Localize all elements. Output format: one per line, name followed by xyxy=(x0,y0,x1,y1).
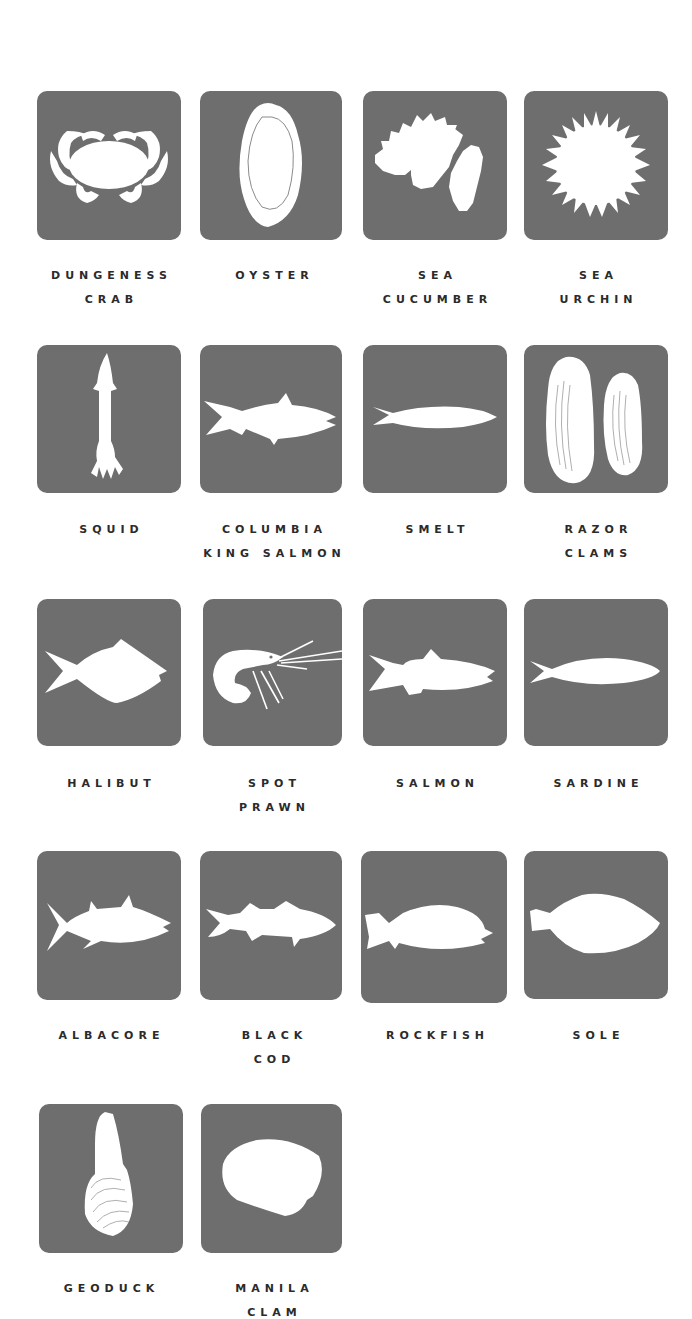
species-label: SMELT xyxy=(345,518,525,542)
albacore-icon xyxy=(37,851,181,1000)
seafood-species-grid: DUNGENESS CRAB OYSTER SEA CUCUMBER xyxy=(0,0,692,1319)
species-label: OYSTER xyxy=(182,264,362,288)
crab-icon xyxy=(37,91,181,240)
species-label: BLACK COD xyxy=(182,1024,362,1072)
sardine-icon xyxy=(524,599,668,746)
species-label: SEA URCHIN xyxy=(506,264,686,312)
species-card-spot-prawn: SPOT PRAWN xyxy=(203,599,373,839)
species-card-columbia-king-salmon: COLUMBIA KING SALMON xyxy=(200,345,370,585)
species-label: SALMON xyxy=(345,772,525,796)
sole-icon xyxy=(524,851,668,999)
razor-clams-icon xyxy=(524,345,668,493)
species-card-manila-clam: MANILA CLAM xyxy=(201,1104,371,1319)
species-label: ALBACORE xyxy=(19,1024,199,1048)
species-card-sole: SOLE xyxy=(524,851,692,1091)
species-label: GEODUCK xyxy=(19,1277,199,1301)
halibut-icon xyxy=(37,599,181,746)
species-card-sardine: SARDINE xyxy=(524,599,692,839)
geoduck-icon xyxy=(39,1104,183,1253)
species-card-black-cod: BLACK COD xyxy=(200,851,370,1091)
manila-clam-icon xyxy=(201,1104,342,1253)
species-label: COLUMBIA KING SALMON xyxy=(182,518,362,566)
spot-prawn-icon xyxy=(203,599,342,746)
species-label: ROCKFISH xyxy=(345,1024,525,1048)
species-card-razor-clams: RAZOR CLAMS xyxy=(524,345,692,585)
smelt-icon xyxy=(363,345,507,493)
rockfish-icon xyxy=(361,851,507,1003)
sea-urchin-icon xyxy=(524,91,668,240)
species-label: SARDINE xyxy=(506,772,686,796)
species-card-sea-urchin: SEA URCHIN xyxy=(524,91,692,331)
sea-cucumber-icon xyxy=(363,91,507,240)
species-label: SEA CUCUMBER xyxy=(345,264,525,312)
species-label: MANILA CLAM xyxy=(182,1277,362,1319)
species-card-rockfish: ROCKFISH xyxy=(361,851,531,1091)
species-label: DUNGENESS CRAB xyxy=(19,264,199,312)
species-card-dungeness-crab: DUNGENESS CRAB xyxy=(37,91,207,331)
salmon-icon xyxy=(363,599,507,746)
species-card-salmon: SALMON xyxy=(363,599,533,839)
squid-icon xyxy=(37,345,181,493)
species-label: HALIBUT xyxy=(19,772,199,796)
oyster-icon xyxy=(200,91,342,240)
species-label: SOLE xyxy=(506,1024,686,1048)
species-label: RAZOR CLAMS xyxy=(506,518,686,566)
black-cod-icon xyxy=(200,851,342,1000)
species-label: SPOT PRAWN xyxy=(182,772,362,820)
king-salmon-icon xyxy=(200,345,342,493)
species-label: SQUID xyxy=(19,518,199,542)
